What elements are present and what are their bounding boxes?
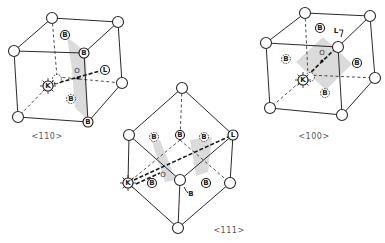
svg-text:B: B xyxy=(203,179,208,187)
svg-text:B: B xyxy=(149,179,154,187)
svg-text:O: O xyxy=(160,171,166,179)
cube-110: B B B B L O K <110> xyxy=(9,13,128,142)
caption-110: <110> xyxy=(31,132,62,141)
caption-111: <111> xyxy=(213,226,244,235)
svg-text:B: B xyxy=(62,31,67,39)
svg-text:K: K xyxy=(45,82,51,90)
crystal-orientation-diagram: B B B B L O K <110> xyxy=(0,0,385,243)
cube-100: B B B B L O K <100> xyxy=(261,8,381,142)
svg-text:O: O xyxy=(74,67,80,75)
svg-text:L: L xyxy=(231,131,236,139)
svg-text:B: B xyxy=(188,190,193,198)
svg-text:L: L xyxy=(334,27,339,35)
svg-text:O: O xyxy=(319,49,325,57)
svg-text:B: B xyxy=(81,49,86,57)
svg-text:K: K xyxy=(125,179,131,187)
svg-text:B: B xyxy=(151,133,156,141)
shaded-plane xyxy=(190,137,212,176)
svg-text:B: B xyxy=(68,95,73,103)
svg-text:L: L xyxy=(103,66,108,74)
svg-text:K: K xyxy=(300,76,306,84)
svg-text:B: B xyxy=(177,131,182,139)
svg-text:B: B xyxy=(283,55,288,63)
svg-text:B: B xyxy=(322,89,327,97)
caption-100: <100> xyxy=(298,132,329,141)
cube-111: L B B B B B O B K <111> xyxy=(120,83,245,236)
svg-text:B: B xyxy=(317,24,322,32)
svg-text:B: B xyxy=(201,133,206,141)
svg-text:B: B xyxy=(85,118,90,126)
svg-text:B: B xyxy=(354,59,359,67)
